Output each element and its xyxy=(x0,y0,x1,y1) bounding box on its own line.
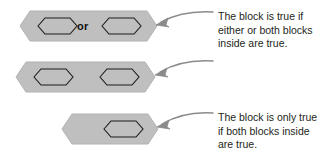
not-slot[interactable] xyxy=(104,121,143,137)
block-row-not: not The block is only true if the block … xyxy=(0,102,333,154)
or-caption-text: The block is true if either or both bloc… xyxy=(218,10,333,51)
or-block-label: or xyxy=(77,21,88,32)
or-slot-left[interactable] xyxy=(38,18,77,34)
or-arrow-line xyxy=(161,12,213,22)
block-row-or: or The block is true if either or both b… xyxy=(0,0,333,50)
not-block-graphic[interactable] xyxy=(0,102,333,154)
diagram-canvas: or The block is true if either or both b… xyxy=(0,0,333,154)
or-slot-right[interactable] xyxy=(102,18,141,34)
and-arrow-head-icon xyxy=(155,68,168,77)
or-arrow-head-icon xyxy=(156,18,169,27)
and-block-graphic[interactable] xyxy=(0,50,333,102)
block-row-and: and The block is only true if both block… xyxy=(0,50,333,102)
and-slot-right[interactable] xyxy=(100,69,139,85)
not-arrow-head-icon xyxy=(157,120,170,129)
and-slot-left[interactable] xyxy=(34,69,73,85)
and-arrow-line xyxy=(160,61,213,72)
not-arrow-line xyxy=(162,113,213,124)
